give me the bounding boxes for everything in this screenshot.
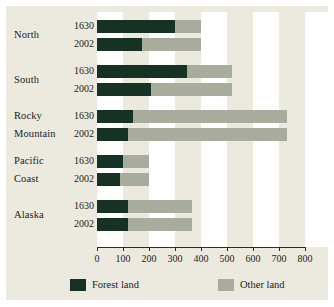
x-axis-tick [253, 247, 254, 251]
x-axis-tick [201, 247, 202, 251]
x-axis-tick [279, 247, 280, 251]
bar-segment-other [175, 20, 201, 33]
bar-segment-forest [97, 128, 128, 141]
x-axis-tick-label: 800 [290, 253, 320, 264]
x-axis-tick [97, 247, 98, 251]
x-axis-tick [123, 247, 124, 251]
bar-segment-other [142, 38, 201, 51]
x-axis-tick [175, 247, 176, 251]
year-label-south-2002: 2002 [74, 83, 94, 94]
region-label-south: South [14, 74, 39, 85]
x-axis-tick [149, 247, 150, 251]
grid-band-5 [305, 12, 331, 247]
year-label-pacific-coast-2002: 2002 [74, 173, 94, 184]
region-label-pacific-coast-line1: Pacific [14, 155, 44, 166]
region-label-rocky-mountain-line2: Mountain [14, 128, 56, 139]
bar-segment-other [123, 155, 149, 168]
chart-legend: Forest land Other land [8, 278, 326, 294]
legend-swatch-forest-icon [70, 279, 86, 291]
bar-segment-forest [97, 65, 187, 78]
region-label-north: North [14, 29, 39, 40]
year-label-pacific-coast-1630: 1630 [74, 155, 94, 166]
bar-segment-forest [97, 155, 123, 168]
bar-segment-other [128, 128, 287, 141]
year-label-alaska-1630: 1630 [74, 200, 94, 211]
year-label-rocky-mountain-1630: 1630 [74, 110, 94, 121]
year-label-north-2002: 2002 [74, 38, 94, 49]
bar-segment-other [128, 200, 192, 213]
x-axis-tick [305, 247, 306, 251]
region-label-rocky-mountain-line1: Rocky [14, 110, 42, 121]
legend-label-forest-land: Forest land [92, 278, 139, 291]
year-label-rocky-mountain-2002: 2002 [74, 128, 94, 139]
region-label-alaska: Alaska [14, 209, 44, 220]
bar-segment-other [187, 65, 232, 78]
bar-segment-other [151, 83, 232, 96]
region-label-pacific-coast-line2: Coast [14, 173, 38, 184]
bar-segment-forest [97, 38, 142, 51]
legend-swatch-other-icon [218, 279, 234, 291]
bar-segment-other [128, 218, 192, 231]
year-label-north-1630: 1630 [74, 20, 94, 31]
category-labels: North 1630 2002 South 1630 2002 Rocky Mo… [8, 12, 97, 247]
bar-segment-forest [97, 20, 175, 33]
legend-label-other-land: Other land [240, 278, 285, 291]
bar-segment-forest [97, 173, 120, 186]
bar-segment-forest [97, 218, 128, 231]
bar-chart: North 1630 2002 South 1630 2002 Rocky Mo… [0, 0, 334, 307]
year-label-alaska-2002: 2002 [74, 218, 94, 229]
bar-segment-other [120, 173, 149, 186]
x-axis-tick [227, 247, 228, 251]
bar-segment-forest [97, 200, 128, 213]
bar-segment-other [133, 110, 287, 123]
bar-segment-forest [97, 83, 151, 96]
bar-segment-forest [97, 110, 133, 123]
year-label-south-1630: 1630 [74, 65, 94, 76]
plot-area [97, 12, 305, 247]
